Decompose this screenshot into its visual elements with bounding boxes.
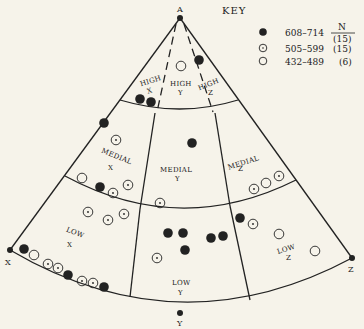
legend-n-3: (6) xyxy=(339,57,352,67)
filled-point-icon xyxy=(135,94,145,104)
medial-y-label-1: MEDIAL xyxy=(160,166,192,174)
medial-z-label-2: Z xyxy=(238,165,243,173)
filled-point-icon xyxy=(218,231,228,241)
dotted-point-center-icon xyxy=(57,267,59,269)
vertex-a-dot xyxy=(177,15,183,21)
high-y-label-1: HIGH xyxy=(170,80,192,88)
medial-divider-right xyxy=(215,113,230,206)
dotted-point-center-icon xyxy=(107,219,109,221)
dotted-point-center-icon xyxy=(252,223,254,225)
medial-x-label-2: X xyxy=(108,164,113,172)
vertex-z-dot xyxy=(349,255,355,261)
filled-point-icon xyxy=(178,228,188,238)
vertex-y-dot xyxy=(177,310,183,316)
vertex-z-label: Z xyxy=(348,265,354,274)
filled-point-icon xyxy=(180,245,190,255)
filled-point-icon xyxy=(99,118,109,128)
filled-point-icon xyxy=(95,182,105,192)
filled-point-icon xyxy=(63,270,73,280)
dotted-point-center-icon xyxy=(159,202,161,204)
vertex-x-label: X xyxy=(5,258,11,267)
ternary-sector-diagram: A X Y Z HIGH X HIGH Y HIGH Z MEDIAL X ME… xyxy=(0,0,364,329)
dotted-point-center-icon xyxy=(47,263,49,265)
filled-point-icon xyxy=(99,282,109,292)
legend: KEY N 608–714 (15) 505–599 (15) 432–489 … xyxy=(222,5,355,67)
vertex-y-label: Y xyxy=(176,319,183,328)
legend-range-3: 432–489 xyxy=(285,57,324,67)
right-edge xyxy=(180,18,352,258)
low-y-label-1: LOW xyxy=(172,279,191,287)
filled-point-icon xyxy=(194,55,204,65)
medial-divider-left xyxy=(140,113,155,209)
low-z-label-2: Z xyxy=(286,254,291,262)
vertex-x-dot xyxy=(7,247,13,253)
dotted-point-center-icon xyxy=(123,213,125,215)
medial-z-label-1: MEDIAL xyxy=(227,154,260,172)
dotted-point-center-icon xyxy=(253,188,255,190)
vertex-a-label: A xyxy=(176,5,183,14)
legend-n-2: (15) xyxy=(333,44,351,54)
legend-open-icon xyxy=(259,57,267,65)
dotted-point-center-icon xyxy=(127,184,129,186)
medial-y-label-2: Y xyxy=(174,175,180,183)
filled-point-icon xyxy=(206,233,216,243)
legend-n-header: N xyxy=(338,22,346,32)
open-point-icon xyxy=(274,229,284,239)
open-point-icon xyxy=(261,178,271,188)
high-divider-right xyxy=(184,24,213,112)
filled-point-icon xyxy=(19,244,29,254)
legend-range-2: 505–599 xyxy=(285,44,324,54)
open-point-icon xyxy=(77,173,87,183)
low-divider-left xyxy=(130,209,140,297)
diagram-canvas: A X Y Z HIGH X HIGH Y HIGH Z MEDIAL X ME… xyxy=(0,0,364,329)
dotted-point-center-icon xyxy=(156,257,158,259)
filled-point-icon xyxy=(146,97,156,107)
dotted-point-center-icon xyxy=(112,192,114,194)
dotted-point-center-icon xyxy=(115,139,117,141)
filled-point-icon xyxy=(163,228,173,238)
filled-point-icon xyxy=(235,213,245,223)
low-x-label-2: X xyxy=(67,241,72,249)
open-point-icon xyxy=(29,250,39,260)
legend-range-1: 608–714 xyxy=(285,28,324,38)
medial-x-label-1: MEDIAL xyxy=(100,147,133,166)
filled-point-icon xyxy=(187,138,197,148)
dotted-point-center-icon xyxy=(278,175,280,177)
dotted-point-center-icon xyxy=(92,282,94,284)
low-x-label-1: LOW xyxy=(65,226,86,241)
open-point-icon xyxy=(310,246,320,256)
legend-dotted-center-icon xyxy=(262,47,264,49)
left-edge xyxy=(10,18,180,250)
dotted-point-center-icon xyxy=(81,280,83,282)
low-y-label-2: Y xyxy=(177,289,183,297)
legend-filled-icon xyxy=(259,28,267,36)
high-x-label-2: X xyxy=(146,86,154,95)
high-y-label-2: Y xyxy=(177,89,183,97)
high-z-label-2: Z xyxy=(208,89,213,97)
open-point-icon xyxy=(176,61,186,71)
dotted-point-center-icon xyxy=(87,211,89,213)
legend-title: KEY xyxy=(222,5,246,16)
legend-n-1: (15) xyxy=(333,34,351,44)
